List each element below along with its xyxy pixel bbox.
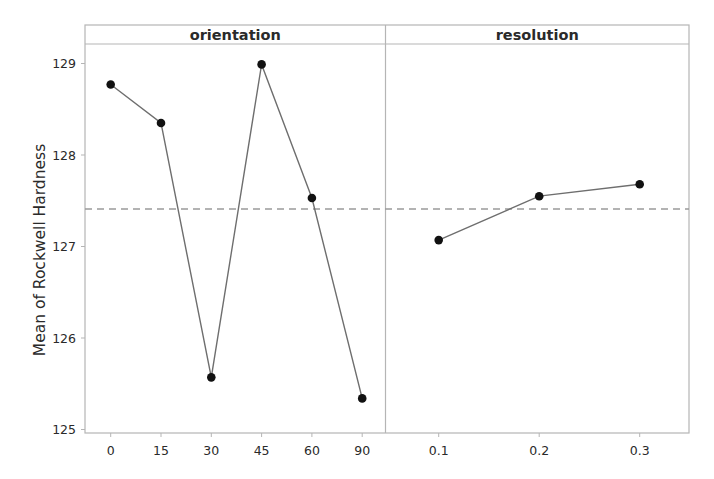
data-point-orientation-45 [257, 60, 266, 69]
series-resolution [434, 180, 644, 244]
y-tick-label: 126 [52, 331, 76, 346]
data-point-resolution-0.3 [635, 180, 644, 189]
panel-title-orientation: orientation [190, 27, 281, 43]
data-point-resolution-0.1 [434, 236, 443, 245]
y-tick-label: 129 [52, 56, 76, 71]
y-tick-label: 125 [52, 422, 76, 437]
x-tick-label-orientation: 15 [153, 443, 169, 458]
y-tick-label: 127 [52, 239, 76, 254]
x-tick-label-orientation: 90 [354, 443, 370, 458]
x-tick-label-orientation: 60 [304, 443, 320, 458]
x-tick-label-resolution: 0.3 [630, 443, 650, 458]
x-tick-label-orientation: 30 [203, 443, 219, 458]
x-tick-label-resolution: 0.2 [529, 443, 549, 458]
x-axis: 015304560900.10.20.3 [107, 433, 650, 458]
data-point-orientation-90 [358, 394, 367, 403]
plot-border [85, 25, 689, 433]
y-tick-label: 128 [52, 148, 76, 163]
data-point-orientation-60 [308, 194, 317, 203]
data-point-resolution-0.2 [535, 192, 544, 201]
data-point-orientation-30 [207, 373, 216, 382]
x-tick-label-orientation: 0 [107, 443, 115, 458]
series-orientation [106, 60, 366, 403]
plot-frame: orientationresolution [85, 25, 689, 433]
y-axis: 125126127128129 [52, 56, 85, 437]
data-point-orientation-0 [106, 80, 115, 89]
x-tick-label-resolution: 0.1 [429, 443, 449, 458]
y-axis-title: Mean of Rockwell Hardness [31, 144, 49, 356]
main-effects-plot: orientationresolution 125126127128129 01… [0, 0, 714, 479]
data-series [106, 60, 644, 403]
data-point-orientation-15 [157, 119, 166, 128]
x-tick-label-orientation: 45 [254, 443, 270, 458]
panel-title-resolution: resolution [496, 27, 579, 43]
series-line [111, 64, 363, 398]
